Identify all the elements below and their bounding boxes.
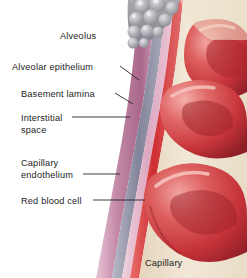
label-alveolus: Alveolus <box>60 31 96 43</box>
label-capillary: Capillary <box>145 258 182 270</box>
label-alveolar-epithelium: Alveolar epithelium <box>12 62 93 74</box>
anatomical-illustration <box>0 0 247 278</box>
label-red-blood-cell: Red blood cell <box>21 196 82 208</box>
label-basement-lamina: Basement lamina <box>21 89 95 101</box>
respiratory-membrane-figure: Alveolus Alveolar epithelium Basement la… <box>0 0 247 278</box>
label-interstitial-space: Interstitial space <box>21 113 63 136</box>
label-capillary-endothelium: Capillary endothelium <box>21 158 73 181</box>
